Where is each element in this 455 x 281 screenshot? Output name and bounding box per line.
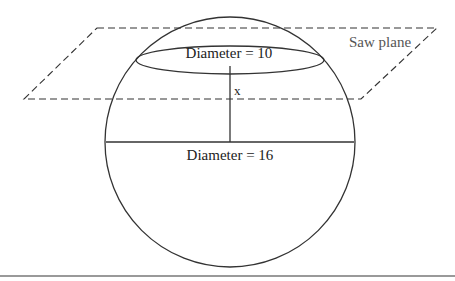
small-diameter-label: Diameter = 10 (186, 45, 273, 61)
large-diameter-label: Diameter = 16 (187, 147, 274, 163)
sphere-diagram: Saw plane Diameter = 10 x Diameter = 16 (0, 0, 455, 281)
distance-label: x (234, 83, 241, 98)
diagram-canvas: Saw plane Diameter = 10 x Diameter = 16 (0, 0, 455, 281)
saw-plane-label: Saw plane (349, 34, 411, 50)
